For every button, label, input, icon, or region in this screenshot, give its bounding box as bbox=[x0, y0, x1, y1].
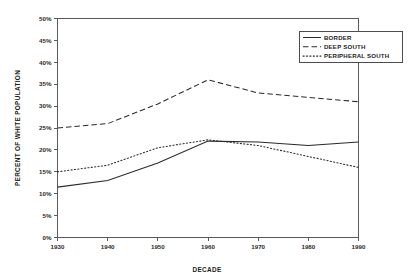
y-tick-label: 25% bbox=[39, 124, 52, 131]
y-tick-label: 5% bbox=[43, 212, 52, 219]
y-tick-label: 20% bbox=[39, 146, 52, 153]
x-axis-title: DECADE bbox=[192, 266, 221, 273]
x-tick-label: 1930 bbox=[51, 243, 65, 250]
y-tick-label: 40% bbox=[39, 59, 52, 66]
y-tick-label: 45% bbox=[39, 37, 52, 44]
y-tick-label: 0% bbox=[43, 234, 52, 241]
x-tick-label: 1990 bbox=[352, 243, 366, 250]
y-tick-label: 30% bbox=[39, 102, 52, 109]
y-tick-label: 35% bbox=[39, 80, 52, 87]
legend-label: PERIPHERAL SOUTH bbox=[324, 52, 389, 59]
x-tick-label: 1960 bbox=[201, 243, 215, 250]
x-tick-label: 1950 bbox=[151, 243, 165, 250]
x-tick-label: 1970 bbox=[251, 243, 265, 250]
legend-label: BORDER bbox=[324, 34, 352, 41]
chart-legend: BORDERDEEP SOUTHPERIPHERAL SOUTH bbox=[299, 31, 402, 62]
line-chart: 0%5%10%15%20%25%30%35%40%45%50% 19301940… bbox=[0, 0, 418, 280]
y-axis-title: PERCENT OF WHITE POPULATION bbox=[14, 70, 21, 186]
y-tick-label: 15% bbox=[39, 168, 52, 175]
x-tick-label: 1980 bbox=[301, 243, 315, 250]
y-tick-label: 10% bbox=[39, 190, 52, 197]
chart-canvas: 0%5%10%15%20%25%30%35%40%45%50% 19301940… bbox=[0, 0, 418, 280]
legend-label: DEEP SOUTH bbox=[324, 43, 366, 50]
x-tick-label: 1940 bbox=[101, 243, 115, 250]
y-tick-label: 50% bbox=[39, 15, 52, 22]
